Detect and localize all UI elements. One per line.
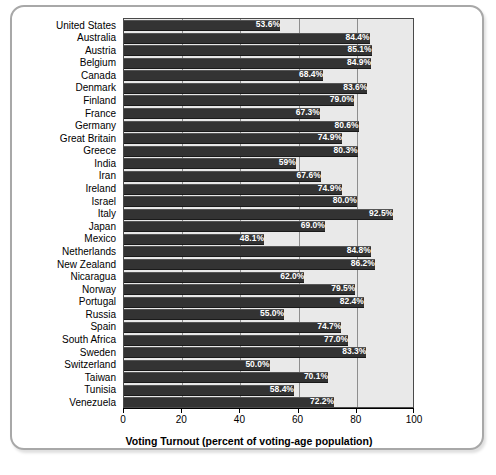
bar-row[interactable]: 85.1% [124, 44, 413, 57]
axis-tick [413, 408, 414, 413]
category-label: Venezuela [69, 396, 116, 409]
category-label: Sweden [80, 346, 116, 359]
axis-tick-label: 80 [336, 414, 376, 425]
category-label: Italy [98, 207, 116, 220]
bar-row[interactable]: 62.0% [124, 271, 413, 284]
category-label: Netherlands [62, 245, 116, 258]
bar-value-label: 67.3% [124, 107, 324, 118]
category-label: Russia [85, 308, 116, 321]
bar-row[interactable]: 74.9% [124, 183, 413, 196]
category-label: Greece [83, 144, 116, 157]
bar-value-label: 53.6% [124, 19, 284, 30]
bar-row[interactable]: 77.0% [124, 334, 413, 347]
category-label: Ireland [85, 182, 116, 195]
bar-value-label: 80.0% [124, 195, 361, 206]
bar-value-label: 80.3% [124, 145, 362, 156]
bar-value-label: 84.4% [124, 32, 374, 43]
bar-row[interactable]: 80.3% [124, 145, 413, 158]
category-label: United States [56, 19, 116, 32]
bar-value-label: 67.6% [124, 170, 325, 181]
bar-value-label: 74.9% [124, 132, 346, 143]
bar-row[interactable]: 55.0% [124, 308, 413, 321]
category-label: Switzerland [64, 358, 116, 371]
axis-tick-label: 20 [161, 414, 201, 425]
axis-tick [123, 408, 124, 413]
bar-row[interactable]: 84.4% [124, 32, 413, 45]
category-label: Austria [85, 44, 116, 57]
bar-row[interactable]: 68.4% [124, 69, 413, 82]
bar-row[interactable]: 80.6% [124, 120, 413, 133]
category-label: Taiwan [85, 371, 116, 384]
value-axis: 020406080100 [123, 408, 414, 409]
bar-row[interactable]: 58.4% [124, 384, 413, 397]
axis-tick-label: 60 [278, 414, 318, 425]
plot-area: 53.6%84.4%85.1%84.9%68.4%83.6%79.0%67.3%… [123, 18, 414, 408]
bar-row[interactable]: 80.0% [124, 195, 413, 208]
bar-value-label: 85.1% [124, 44, 376, 55]
bar-value-label: 74.7% [124, 321, 345, 332]
bar-value-label: 84.8% [124, 245, 375, 256]
bar-value-label: 79.5% [124, 283, 359, 294]
category-label: Canada [81, 69, 116, 82]
bar-row[interactable]: 67.6% [124, 170, 413, 183]
bar-row[interactable]: 72.2% [124, 396, 413, 408]
category-label: Japan [89, 220, 116, 233]
chart-card: United StatesAustraliaAustriaBelgiumCana… [10, 5, 484, 450]
bar-row[interactable]: 74.9% [124, 132, 413, 145]
bar-value-label: 69.0% [124, 220, 329, 231]
category-label: Germany [75, 119, 116, 132]
category-axis-labels: United StatesAustraliaAustriaBelgiumCana… [12, 18, 122, 408]
bar-row[interactable]: 79.0% [124, 94, 413, 107]
bar-row[interactable]: 48.1% [124, 233, 413, 246]
bar-value-label: 72.2% [124, 396, 338, 407]
axis-tick-label: 100 [394, 414, 434, 425]
bar-value-label: 79.0% [124, 94, 358, 105]
bar-row[interactable]: 92.5% [124, 208, 413, 221]
category-label: Spain [90, 320, 116, 333]
bar-row[interactable]: 82.4% [124, 296, 413, 309]
bar-row[interactable]: 74.7% [124, 321, 413, 334]
category-label: Iran [99, 169, 116, 182]
bar-row[interactable]: 83.3% [124, 346, 413, 359]
bar-value-label: 55.0% [124, 308, 288, 319]
category-label: India [94, 157, 116, 170]
axis-tick [181, 408, 182, 413]
bar-value-label: 74.9% [124, 183, 346, 194]
bar-value-label: 48.1% [124, 233, 268, 244]
bar-row[interactable]: 86.2% [124, 258, 413, 271]
bar-value-label: 68.4% [124, 69, 327, 80]
bar-value-label: 59% [124, 157, 300, 168]
axis-tick [298, 408, 299, 413]
bar-row[interactable]: 59% [124, 157, 413, 170]
bar-row[interactable]: 84.8% [124, 245, 413, 258]
bar-row[interactable]: 69.0% [124, 220, 413, 233]
category-label: Nicaragua [70, 270, 116, 283]
bar-row[interactable]: 83.6% [124, 82, 413, 95]
x-axis-title: Voting Turnout (percent of voting-age po… [12, 435, 486, 447]
bar-value-label: 92.5% [124, 208, 397, 219]
bar-value-label: 62.0% [124, 271, 308, 282]
category-label: Mexico [84, 232, 116, 245]
category-label: Norway [82, 283, 116, 296]
bar-row[interactable]: 70.1% [124, 371, 413, 384]
bar-row[interactable]: 79.5% [124, 283, 413, 296]
category-label: Tunisia [84, 383, 116, 396]
bar-row[interactable]: 67.3% [124, 107, 413, 120]
bar-value-label: 82.4% [124, 296, 368, 307]
category-label: Israel [92, 195, 116, 208]
bar-row[interactable]: 53.6% [124, 19, 413, 32]
axis-tick [356, 408, 357, 413]
category-label: Portugal [79, 295, 116, 308]
bar-row[interactable]: 50.0% [124, 359, 413, 372]
category-label: New Zealand [57, 258, 116, 271]
bar-value-label: 77.0% [124, 334, 352, 345]
category-label: Finland [83, 94, 116, 107]
bar-value-label: 83.3% [124, 346, 370, 357]
bar-row[interactable]: 84.9% [124, 57, 413, 70]
bar-value-label: 70.1% [124, 371, 332, 382]
axis-tick [239, 408, 240, 413]
axis-tick-label: 0 [103, 414, 143, 425]
category-label: Belgium [80, 56, 116, 69]
bar-value-label: 84.9% [124, 57, 375, 68]
axis-tick-label: 40 [219, 414, 259, 425]
